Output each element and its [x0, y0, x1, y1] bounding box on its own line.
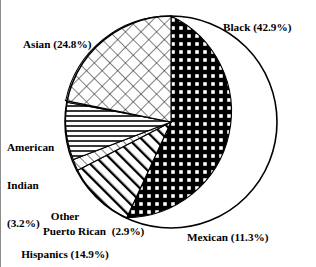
pie-label-asian: Asian (24.8%)	[23, 38, 91, 51]
pie-label-other-hispanics-line2: Hispanics (14.9%)	[9, 248, 121, 261]
pie-label-american-indian-line1: American	[7, 141, 54, 154]
pie-label-mexican: Mexican (11.3%)	[187, 231, 268, 244]
pie-chart: Black (42.9%) Asian (24.8%) American Ind…	[1, 0, 316, 267]
pie-label-other-hispanics-line1: Other	[9, 210, 121, 223]
pie-label-black: Black (42.9%)	[223, 21, 291, 34]
chart-frame: Black (42.9%) Asian (24.8%) American Ind…	[0, 0, 316, 267]
pie-label-puerto-rican: Puerto Rican (2.9%)	[43, 225, 144, 238]
